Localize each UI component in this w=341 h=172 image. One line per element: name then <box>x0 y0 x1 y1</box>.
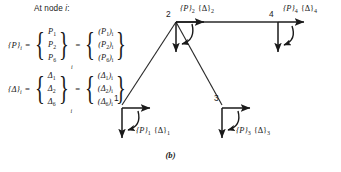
node-1-label: {P}1 {Δ}1 <box>136 126 170 136</box>
vector-cell: Δ6 <box>48 96 56 109</box>
displacement-lhs: {Δ}i <box>8 84 22 95</box>
truss-members <box>122 22 278 105</box>
node-4-force-arrows <box>278 22 304 52</box>
node-3-label: {P}3 {Δ}3 <box>236 126 270 136</box>
node-2-moment-arrow <box>182 24 193 44</box>
displacement-lhs-symbol: {Δ} <box>8 84 20 94</box>
displacement-left-vector-cells: Δ1 Δ2 Δ6 <box>47 70 57 109</box>
figure-caption: (b) <box>0 150 341 160</box>
displacement-lhs-subscript: i <box>20 89 22 95</box>
node-definition-panel: At node i: {P}i = { P1 P2 P6 } i = { (P1… <box>0 0 120 120</box>
force-lhs-subscript: i <box>20 45 22 51</box>
force-left-vector-cells: P1 P2 P6 <box>47 26 57 65</box>
at-node-heading-text: At node <box>34 4 65 13</box>
member-1-2 <box>122 22 176 105</box>
node-4-moment-arrow <box>284 26 293 45</box>
node-number-3: 3 <box>214 93 219 103</box>
vector-cell: P2 <box>48 39 56 52</box>
displacement-equals-1: = <box>25 84 30 94</box>
vector-cell: P6 <box>48 52 56 65</box>
node-number-4: 4 <box>269 9 274 19</box>
node-number-2: 2 <box>166 9 171 19</box>
at-node-heading: At node i: <box>34 4 70 13</box>
at-node-heading-colon: : <box>67 4 69 13</box>
node-4-label: {P}4 {Δ}4 <box>283 4 317 14</box>
displacement-equals-2: = <box>75 84 80 94</box>
displacement-left-vector-subscript: i <box>70 108 72 114</box>
force-lhs-symbol: {P} <box>8 40 20 50</box>
force-lhs: {P}i <box>8 40 22 51</box>
figure-container: At node i: {P}i = { P1 P2 P6 } i = { (P1… <box>0 0 341 172</box>
vector-cell: Δ2 <box>48 83 56 96</box>
force-left-vector: { P1 P2 P6 } i <box>32 26 73 65</box>
vector-cell: Δ1 <box>48 70 56 83</box>
truss-diagram: 2 4 1 3 {P}2 {Δ}2 {P}4 {Δ}4 {P}1 {Δ}1 {P… <box>108 0 341 172</box>
force-equals-1: = <box>25 40 30 50</box>
node-2-label: {P}2 {Δ}2 <box>180 4 214 14</box>
node-number-1: 1 <box>114 93 119 103</box>
vector-cell: P1 <box>48 26 56 39</box>
displacement-left-vector: { Δ1 Δ2 Δ6 } i <box>32 70 73 109</box>
force-equals-2: = <box>76 40 81 50</box>
